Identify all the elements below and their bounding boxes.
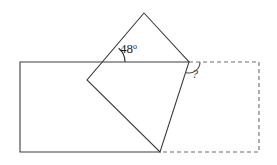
geometry-figure: 48o ? — [0, 0, 277, 165]
solid-rectangle-outline — [20, 62, 189, 152]
rotated-square — [87, 13, 189, 152]
solid-rectangle — [20, 62, 189, 152]
figure-canvas: 48o ? — [0, 0, 277, 165]
angle-unknown-label: ? — [192, 67, 198, 81]
angle-48-degrees: 48o — [119, 41, 137, 62]
rotated-square-outline — [87, 13, 189, 152]
angle-48-label: 48o — [120, 41, 137, 56]
